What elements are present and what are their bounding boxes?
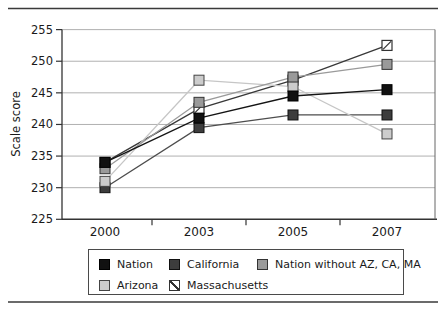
legend-label: Massachusetts xyxy=(187,279,268,292)
marker-Nation-without-AZ-CA-MA xyxy=(194,97,204,107)
y-tick-label: 240 xyxy=(31,117,53,131)
chart-legend: Nation California Nation without AZ, CA,… xyxy=(88,249,404,295)
legend-label: California xyxy=(187,258,239,271)
legend-row: Nation California Nation without AZ, CA,… xyxy=(89,256,403,272)
marker-Nation xyxy=(288,91,298,101)
marker-Arizona xyxy=(100,176,110,186)
marker-California xyxy=(382,110,392,120)
legend-row: Arizona Massachusetts xyxy=(89,277,403,293)
legend-item-arizona: Arizona xyxy=(99,277,158,293)
marker-Arizona xyxy=(288,82,298,92)
y-tick-label: 255 xyxy=(31,23,53,37)
california-swatch-icon xyxy=(169,259,180,270)
series-line-Arizona xyxy=(105,80,387,181)
marker-Arizona xyxy=(382,129,392,139)
nation-without-swatch-icon xyxy=(257,259,268,270)
series-line-Massachusetts xyxy=(105,45,387,162)
y-tick-label: 250 xyxy=(31,54,53,68)
y-tick-label: 230 xyxy=(31,181,53,195)
marker-Nation-without-AZ-CA-MA xyxy=(288,72,298,82)
legend-item-massachusetts: Massachusetts xyxy=(169,277,268,293)
legend-label: Arizona xyxy=(117,279,158,292)
legend-label: Nation xyxy=(117,258,153,271)
x-tick-label: 2005 xyxy=(278,225,309,239)
x-tick-label: 2000 xyxy=(90,225,121,239)
marker-Nation xyxy=(100,157,110,167)
figure: 2552502452402352302252000200320052007Sca… xyxy=(0,0,446,311)
marker-Nation xyxy=(382,85,392,95)
marker-Nation-without-AZ-CA-MA xyxy=(382,59,392,69)
marker-Nation xyxy=(194,113,204,123)
y-tick-label: 235 xyxy=(31,149,53,163)
y-tick-label: 245 xyxy=(31,86,53,100)
massachusetts-swatch-icon xyxy=(169,280,180,291)
x-tick-label: 2003 xyxy=(184,225,215,239)
y-axis-title: Scale score xyxy=(9,91,23,157)
x-tick-label: 2007 xyxy=(372,225,403,239)
legend-item-nation-without: Nation without AZ, CA, MA xyxy=(257,256,421,272)
marker-Arizona xyxy=(194,75,204,85)
nation-swatch-icon xyxy=(99,259,110,270)
legend-item-nation: Nation xyxy=(99,256,153,272)
y-tick-label: 225 xyxy=(31,212,53,226)
marker-California xyxy=(194,123,204,133)
series-line-Nation xyxy=(105,90,387,163)
legend-label: Nation without AZ, CA, MA xyxy=(275,258,421,271)
arizona-swatch-icon xyxy=(99,280,110,291)
legend-item-california: California xyxy=(169,256,239,272)
marker-California xyxy=(288,110,298,120)
series-line-California xyxy=(105,115,387,188)
series-line-Nation-without-AZ-CA-MA xyxy=(105,64,387,168)
